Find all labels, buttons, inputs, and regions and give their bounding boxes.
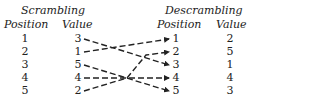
- descrambling-position: 3: [170, 59, 182, 71]
- arrow-value-2-to-pos-2: [84, 52, 169, 91]
- descrambling-position-header: Position: [157, 19, 201, 31]
- descrambling-value: 5: [224, 46, 236, 58]
- descrambling-position: 5: [170, 85, 182, 97]
- arrow-value-3-to-pos-3: [84, 39, 169, 65]
- descrambling-value-header: Value: [216, 19, 247, 31]
- descrambling-value: 4: [224, 72, 236, 84]
- descrambling-position: 2: [170, 46, 182, 58]
- descrambling-value: 2: [224, 33, 236, 45]
- arrow-value-1-to-pos-1: [84, 39, 169, 52]
- descrambling-position: 1: [170, 33, 182, 45]
- descrambling-value: 3: [224, 85, 236, 97]
- descrambling-position: 4: [170, 72, 182, 84]
- descrambling-title: Descrambling: [165, 5, 243, 17]
- descrambling-value: 1: [224, 59, 236, 71]
